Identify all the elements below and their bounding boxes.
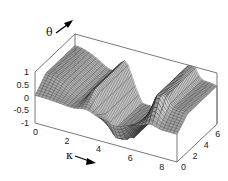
kappa-tick-label: 2 bbox=[65, 136, 70, 146]
theta-tick-label: 4 bbox=[204, 140, 209, 150]
theta-axis-label: θ bbox=[46, 26, 53, 39]
kappa-axis-label: κ bbox=[66, 149, 73, 162]
z-tick-label: 0.5 bbox=[16, 80, 29, 90]
theta-tick-label: 2 bbox=[192, 151, 197, 161]
kappa-tick-label: 8 bbox=[159, 162, 164, 172]
theta-arrow-icon bbox=[56, 20, 73, 33]
z-tick-label: 1 bbox=[24, 67, 29, 77]
surface-mesh bbox=[35, 45, 217, 139]
surface-plot: 02468024610.50-0.5-1 θ κ bbox=[0, 0, 228, 181]
kappa-tick-label: 4 bbox=[96, 144, 101, 154]
kappa-arrow-icon bbox=[75, 156, 96, 165]
theta-tick-label: 0 bbox=[181, 162, 186, 172]
z-tick-label: -0.5 bbox=[13, 105, 29, 115]
z-tick-label: 0 bbox=[24, 93, 29, 103]
theta-tick-label: 6 bbox=[215, 129, 220, 139]
kappa-tick-label: 6 bbox=[128, 153, 133, 163]
z-tick-label: -1 bbox=[21, 118, 29, 128]
kappa-tick-label: 0 bbox=[33, 127, 38, 137]
